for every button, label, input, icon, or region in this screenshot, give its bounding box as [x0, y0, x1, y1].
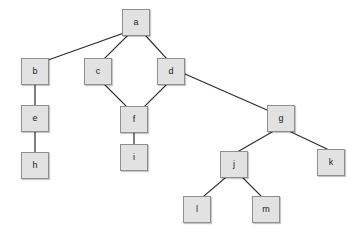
graph-node-l[interactable]: l [183, 196, 211, 223]
graph-node-i[interactable]: i [120, 144, 148, 171]
graph-node-label: h [32, 161, 37, 170]
graph-edge-g-k [291, 132, 327, 149]
graph-node-label: g [278, 114, 283, 123]
edge-layer [0, 0, 358, 234]
graph-edge-j-m [243, 178, 261, 196]
graph-node-label: f [133, 115, 136, 124]
graph-edge-j-l [204, 178, 225, 196]
graph-node-m[interactable]: m [252, 196, 280, 223]
graph-node-label: d [168, 67, 173, 76]
graph-node-label: a [133, 18, 138, 27]
graph-node-label: b [32, 67, 37, 76]
graph-node-j[interactable]: j [220, 151, 248, 178]
graph-edge-a-d [146, 36, 166, 58]
graph-node-g[interactable]: g [267, 105, 295, 132]
graph-node-f[interactable]: f [120, 106, 148, 133]
graph-node-b[interactable]: b [21, 58, 49, 85]
graph-node-d[interactable]: d [157, 58, 185, 85]
graph-node-label: l [196, 205, 198, 214]
graph-canvas: abcdefghijklm [0, 0, 358, 234]
graph-node-label: e [32, 114, 37, 123]
graph-node-label: i [133, 153, 135, 162]
graph-edge-a-b [48, 33, 124, 60]
graph-edge-d-g [185, 74, 267, 110]
graph-edge-d-f [145, 85, 166, 106]
graph-edge-c-f [105, 85, 126, 106]
graph-node-label: c [96, 67, 101, 76]
graph-node-label: k [329, 158, 334, 167]
graph-node-h[interactable]: h [21, 152, 49, 179]
graph-edge-a-c [105, 36, 127, 58]
graph-node-e[interactable]: e [21, 105, 49, 132]
graph-node-c[interactable]: c [84, 58, 112, 85]
graph-edge-g-j [239, 132, 272, 151]
graph-node-label: m [262, 205, 270, 214]
graph-node-a[interactable]: a [122, 9, 150, 36]
graph-node-k[interactable]: k [317, 149, 345, 176]
graph-node-label: j [233, 160, 235, 169]
